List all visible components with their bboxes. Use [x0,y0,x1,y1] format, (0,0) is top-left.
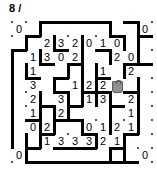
clue-cell: 3 [40,50,54,64]
clue-cell: 2 [110,50,124,64]
clue-cell: 0 [110,36,124,50]
slitherlink-grid[interactable]: 0023201013022011231222313212102012113332… [0,14,157,177]
clue-cell: 3 [68,134,82,148]
clue-cell: 0 [82,36,96,50]
clue-cell: 1 [26,106,40,120]
loop-edge-vertical[interactable] [109,147,112,163]
clue-cell: 1 [26,64,40,78]
clue-cell: 2 [124,64,138,78]
lattice-dot [151,105,153,107]
loop-edge-vertical[interactable] [95,77,98,107]
clue-cell: 0 [138,22,152,36]
clue-cell: 2 [82,78,96,92]
loop-edge-vertical[interactable] [109,91,112,135]
clue-cell: 2 [68,50,82,64]
loop-edge-vertical[interactable] [95,133,98,149]
clue-cell: 3 [82,134,96,148]
lattice-dot [151,91,153,93]
lattice-dot [151,77,153,79]
clue-cell: 2 [68,36,82,50]
loop-edge-vertical[interactable] [39,133,42,149]
clue-cell: 1 [124,106,138,120]
loop-edge-vertical[interactable] [137,91,140,135]
clue-cell: 3 [54,36,68,50]
loop-edge-vertical[interactable] [137,21,140,51]
loop-edge-vertical[interactable] [109,21,112,37]
clue-cell: 1 [26,50,40,64]
clue-cell: 2 [40,120,54,134]
loop-edge-vertical[interactable] [11,119,14,149]
clue-cell: 2 [96,134,110,148]
clue-cell: 0 [124,50,138,64]
loop-edge-vertical[interactable] [81,119,84,135]
loop-edge-vertical[interactable] [137,49,140,65]
clue-cell: 3 [26,78,40,92]
clue-cell: 0 [138,148,152,162]
clue-cell: 0 [54,50,68,64]
loop-edge-vertical[interactable] [67,105,70,121]
clue-cell: 1 [96,36,110,50]
loop-edge-horizontal[interactable] [39,21,111,24]
lattice-dot [151,133,153,135]
loop-edge-vertical[interactable] [123,147,126,163]
clue-cell: 2 [96,78,110,92]
clue-cell: 3 [96,92,110,106]
loop-edge-vertical[interactable] [109,49,112,65]
lattice-dot [151,119,153,121]
loop-edge-vertical[interactable] [53,77,56,93]
clue-cell: 2 [40,36,54,50]
loop-edge-vertical[interactable] [25,63,28,79]
clue-cell: 2 [124,92,138,106]
page-title: 8 / [9,2,21,14]
loop-edge-vertical[interactable] [39,91,42,121]
clue-cell: 0 [82,120,96,134]
clue-cell: 2 [110,120,124,134]
clue-cell: 1 [96,120,110,134]
clue-cell: 2 [26,92,40,106]
loop-edge-vertical[interactable] [53,35,56,51]
clue-cell: 1 [96,64,110,78]
clue-cell: 1 [82,92,96,106]
clue-cell: 0 [26,120,40,134]
loop-edge-vertical[interactable] [25,147,28,163]
loop-edge-vertical[interactable] [39,21,42,37]
clue-cell: 3 [54,92,68,106]
clue-cell: 1 [110,134,124,148]
loop-edge-vertical[interactable] [11,49,14,121]
clue-cell: 3 [54,134,68,148]
loop-edge-horizontal[interactable] [53,147,97,150]
clue-cell: 1 [40,134,54,148]
puzzle-page: 8 / 002320101302201123122231321210201211… [0,0,157,177]
loop-edge-vertical[interactable] [81,49,84,107]
clue-cell: 0 [12,22,26,36]
clue-cell: 2 [54,106,68,120]
clue-cell: 1 [68,78,82,92]
loop-edge-vertical[interactable] [25,35,28,51]
shaded-marker-cell[interactable] [112,81,123,93]
loop-edge-vertical[interactable] [53,119,56,135]
loop-edge-vertical[interactable] [67,63,70,79]
clue-cell: 0 [12,148,26,162]
lattice-dot [151,49,153,51]
loop-edge-vertical[interactable] [123,63,126,79]
loop-edge-vertical[interactable] [39,49,42,65]
loop-edge-vertical[interactable] [123,35,126,51]
clue-cell: 1 [124,120,138,134]
